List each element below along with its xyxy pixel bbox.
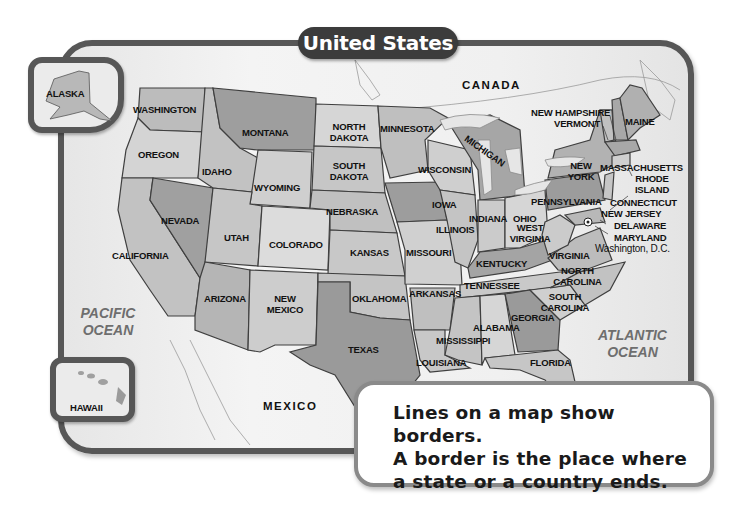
label-washington: WASHINGTON xyxy=(133,104,196,115)
label-washington-dc: Washington, D.C. xyxy=(595,243,670,254)
label-wisconsin: WISCONSIN xyxy=(418,164,471,175)
label-canada: CANADA xyxy=(462,80,521,91)
label-kansas: KANSAS xyxy=(350,247,389,258)
state-maine xyxy=(620,85,660,140)
label-new-york: NEW YORK xyxy=(563,160,599,182)
label-utah: UTAH xyxy=(224,232,249,243)
label-pacific-ocean: PACIFIC OCEAN xyxy=(78,305,138,339)
label-maine: MAINE xyxy=(625,116,655,127)
label-atlantic-ocean: ATLANTIC OCEAN xyxy=(595,327,670,361)
label-new-mexico: NEW MEXICO xyxy=(265,293,305,315)
label-mississippi: MISSISSIPPI xyxy=(436,335,490,346)
label-arkansas: ARKANSAS xyxy=(409,288,461,299)
label-nebraska: NEBRASKA xyxy=(326,206,378,217)
label-south-carolina: SOUTH CAROLINA xyxy=(540,291,590,313)
label-tennessee: TENNESSEE xyxy=(464,280,520,291)
state-wyoming xyxy=(250,150,312,208)
label-oregon: OREGON xyxy=(138,149,179,160)
label-maryland: MARYLAND xyxy=(614,232,666,243)
label-hawaii: HAWAII xyxy=(70,402,103,413)
label-florida: FLORIDA xyxy=(530,357,571,368)
border-definition-callout: Lines on a map show borders. A border is… xyxy=(354,381,714,487)
label-texas: TEXAS xyxy=(348,344,379,355)
label-indiana: INDIANA xyxy=(469,213,507,224)
callout-line-1: Lines on a map show borders. xyxy=(393,402,615,446)
state-colorado xyxy=(258,206,330,270)
label-pennsylvania: PENNSYLVANIA xyxy=(531,196,602,207)
label-alaska: ALASKA xyxy=(46,88,84,99)
label-arizona: ARIZONA xyxy=(204,293,246,304)
label-north-dakota: NORTH DAKOTA xyxy=(329,121,369,143)
label-new-jersey: NEW JERSEY xyxy=(601,208,661,219)
label-connecticut: CONNECTICUT xyxy=(610,197,677,208)
state-arizona xyxy=(195,262,250,350)
label-west-virginia: WEST VIRGINIA xyxy=(505,222,555,244)
label-nevada: NEVADA xyxy=(161,215,199,226)
label-delaware: DELAWARE xyxy=(614,220,666,231)
state-new-jersey xyxy=(603,172,614,200)
callout-line-3: a state or a country ends. xyxy=(393,471,668,492)
page-title: United States xyxy=(298,27,458,59)
label-louisiana: LOUISIANA xyxy=(416,357,466,368)
label-idaho: IDAHO xyxy=(202,166,232,177)
state-indiana xyxy=(478,200,505,252)
label-virginia: VIRGINIA xyxy=(549,250,590,261)
label-california: CALIFORNIA xyxy=(112,250,169,261)
label-wyoming: WYOMING xyxy=(254,182,300,193)
label-new-hampshire: NEW HAMPSHIRE xyxy=(531,107,610,118)
label-alabama: ALABAMA xyxy=(473,322,520,333)
label-iowa: IOWA xyxy=(432,199,457,210)
label-south-dakota: SOUTH DAKOTA xyxy=(329,160,369,182)
callout-line-2: A border is the place where xyxy=(393,448,687,469)
label-rhode-island: RHODE ISLAND xyxy=(632,173,672,195)
label-massachusetts: MASSACHUSETTS xyxy=(600,162,683,173)
label-missouri: MISSOURI xyxy=(406,247,451,258)
label-minnesota: MINNESOTA xyxy=(380,123,435,134)
label-vermont: VERMONT xyxy=(554,118,600,129)
label-colorado: COLORADO xyxy=(269,239,323,250)
label-north-carolina: NORTH CAROLINA xyxy=(550,265,605,287)
label-oklahoma: OKLAHOMA xyxy=(352,293,406,304)
label-kentucky: KENTUCKY xyxy=(476,258,527,269)
label-illinois: ILLINOIS xyxy=(436,224,475,235)
label-georgia: GEORGIA xyxy=(511,312,554,323)
label-mexico: MEXICO xyxy=(263,401,317,412)
label-montana: MONTANA xyxy=(242,127,288,138)
